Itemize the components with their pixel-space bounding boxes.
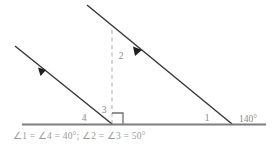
exterior-angle-label: 140° <box>239 114 257 124</box>
right-parallel-line <box>87 5 232 124</box>
left-parallel-line <box>15 46 112 124</box>
arrowhead-icon-left <box>38 68 46 77</box>
angle-label-3: 3 <box>102 105 107 115</box>
angle-label-2: 2 <box>119 51 124 61</box>
right-angle-marker <box>112 113 123 124</box>
angle-label-1: 1 <box>205 113 210 123</box>
arrowhead-icon-right <box>133 47 142 57</box>
angle-label-4: 4 <box>82 113 87 123</box>
figure-caption: ∠1 = ∠4 = 40°; ∠2 = ∠3 = 50° <box>13 130 273 141</box>
